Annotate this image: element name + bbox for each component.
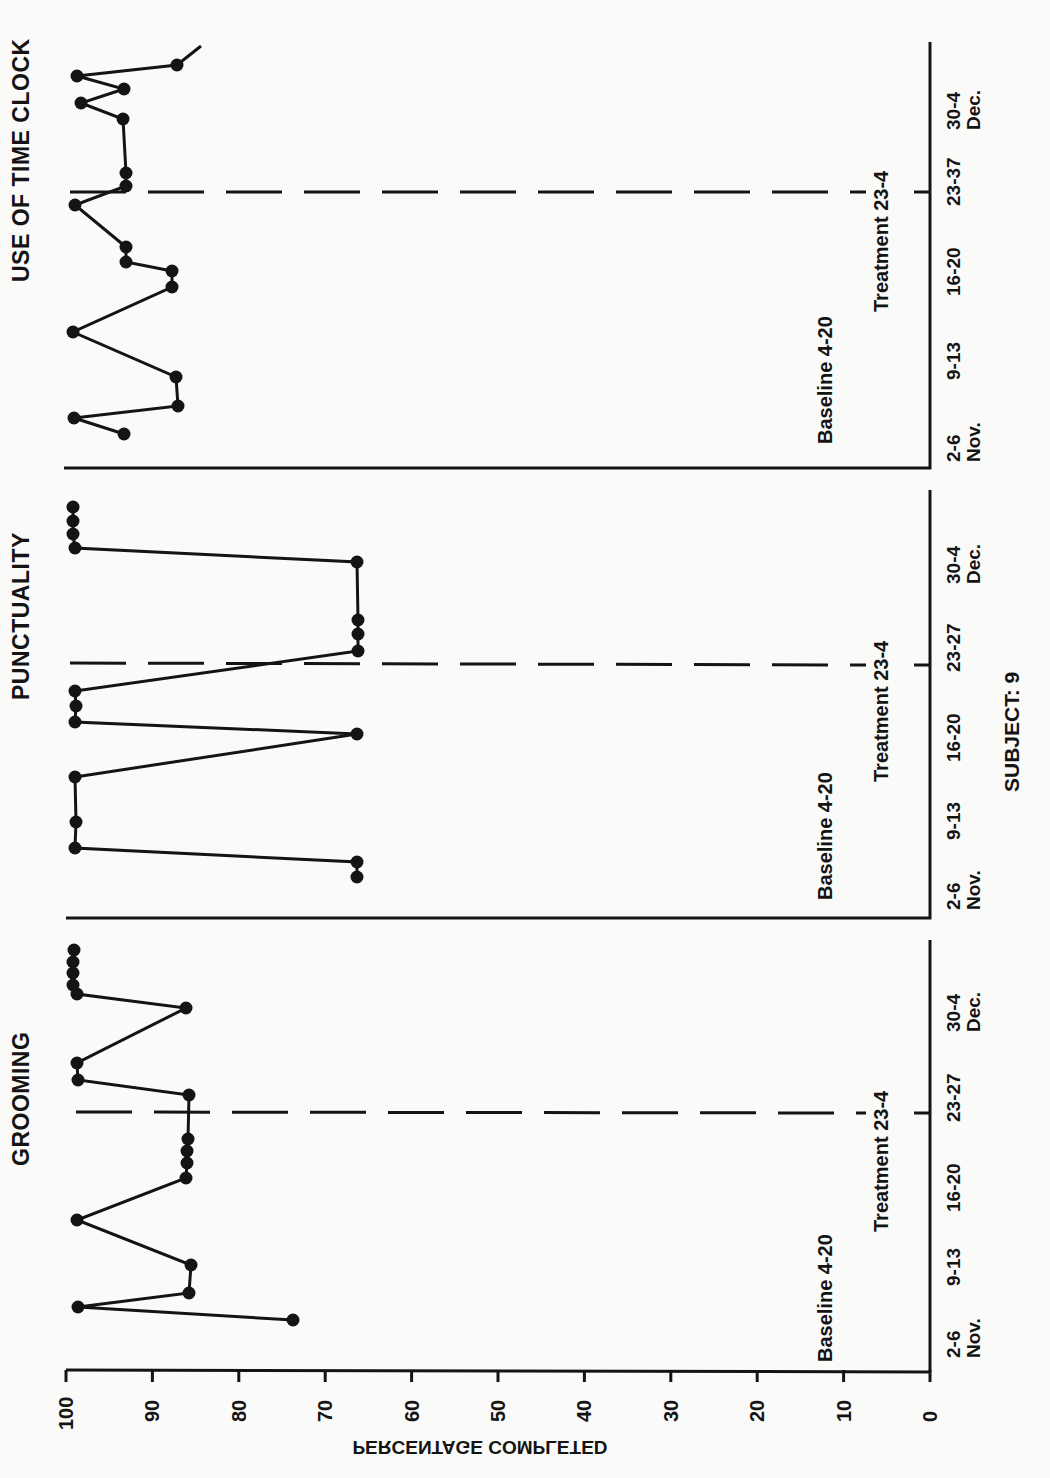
series-time-clock bbox=[67, 46, 202, 441]
date-label: 2-6 Nov. bbox=[944, 422, 984, 462]
data-point bbox=[118, 428, 131, 441]
data-point bbox=[182, 1133, 195, 1146]
data-point bbox=[171, 59, 184, 72]
data-point bbox=[67, 326, 80, 339]
data-point bbox=[180, 1172, 193, 1185]
date-label: 16-20 bbox=[944, 1163, 964, 1212]
data-point bbox=[72, 1301, 85, 1314]
percentage-tick-label: 100 bbox=[56, 1397, 76, 1430]
series-line bbox=[73, 507, 358, 877]
data-point bbox=[68, 412, 81, 425]
baseline-label-time-clock: Baseline 4-20 bbox=[814, 316, 837, 444]
date-label: 23-27 bbox=[944, 1073, 964, 1122]
data-point bbox=[351, 728, 364, 741]
data-point bbox=[70, 816, 83, 829]
data-point bbox=[69, 842, 82, 855]
data-point bbox=[118, 83, 131, 96]
data-point bbox=[180, 1002, 193, 1015]
data-point bbox=[352, 645, 365, 658]
data-point bbox=[75, 97, 88, 110]
phase-line-punctuality bbox=[70, 663, 866, 665]
percentage-tick-label: 70 bbox=[315, 1400, 335, 1422]
date-label: 30-4 Dec. bbox=[944, 90, 984, 130]
data-point bbox=[352, 628, 365, 641]
panel-title-grooming: GROOMING bbox=[8, 1032, 35, 1166]
percentage-tick-label: 50 bbox=[488, 1400, 508, 1422]
date-label: 9-13 bbox=[944, 342, 964, 380]
baseline-label-grooming: Baseline 4-20 bbox=[814, 1234, 837, 1362]
data-point bbox=[68, 944, 81, 957]
date-label: 23-37 bbox=[944, 157, 964, 206]
data-point bbox=[166, 281, 179, 294]
data-point bbox=[117, 113, 130, 126]
data-point bbox=[69, 771, 82, 784]
data-point bbox=[172, 400, 185, 413]
series-punctuality bbox=[67, 501, 365, 884]
y-axis-title: PERCENTAGE COMPLETED bbox=[300, 1436, 660, 1458]
baseline-label-punctuality: Baseline 4-20 bbox=[814, 772, 837, 900]
data-point bbox=[120, 180, 133, 193]
data-point bbox=[183, 1287, 196, 1300]
percentage-tick-label: 20 bbox=[747, 1400, 767, 1422]
subject-label: SUBJECT: 9 bbox=[1000, 672, 1024, 792]
data-point bbox=[71, 1214, 84, 1227]
data-point bbox=[181, 1145, 194, 1158]
data-point bbox=[287, 1314, 300, 1327]
data-point bbox=[181, 1157, 194, 1170]
data-point bbox=[72, 1074, 85, 1087]
data-point bbox=[183, 1089, 196, 1102]
treatment-label-grooming: Treatment 23-4 bbox=[870, 1091, 893, 1232]
series-grooming bbox=[67, 944, 300, 1327]
figure: USE OF TIME CLOCK PUNCTUALITY GROOMING B… bbox=[0, 0, 1050, 1478]
data-point bbox=[120, 256, 133, 269]
data-point bbox=[69, 542, 82, 555]
data-point bbox=[70, 700, 83, 713]
phase-line-grooming bbox=[76, 1112, 866, 1113]
date-label: 16-20 bbox=[944, 247, 964, 296]
data-point bbox=[351, 556, 364, 569]
date-label: 30-4 Dec. bbox=[944, 992, 984, 1032]
data-point bbox=[120, 241, 133, 254]
data-point bbox=[71, 1057, 84, 1070]
percentage-tick-label: 10 bbox=[834, 1400, 854, 1422]
panel-title-punctuality: PUNCTUALITY bbox=[8, 532, 35, 700]
percentage-tick-label: 30 bbox=[661, 1400, 681, 1422]
data-point bbox=[67, 528, 80, 541]
panel-title-time-clock: USE OF TIME CLOCK bbox=[8, 38, 35, 282]
data-point bbox=[71, 988, 84, 1001]
time-axes bbox=[64, 42, 930, 1372]
percentage-tick-label: 0 bbox=[920, 1411, 940, 1422]
date-label: 23-27 bbox=[944, 623, 964, 672]
data-point bbox=[351, 871, 364, 884]
percentage-tick-label: 40 bbox=[574, 1400, 594, 1422]
data-point bbox=[166, 265, 179, 278]
data-point bbox=[69, 716, 82, 729]
percentage-tick-label: 90 bbox=[142, 1400, 162, 1422]
data-point bbox=[170, 371, 183, 384]
percentage-tick-label: 80 bbox=[229, 1400, 249, 1422]
date-label: 9-13 bbox=[944, 1248, 964, 1286]
data-point bbox=[67, 515, 80, 528]
data-point bbox=[120, 167, 133, 180]
date-label: 2-6 Nov. bbox=[944, 1318, 984, 1358]
date-label: 30-4 Dec. bbox=[944, 544, 984, 584]
percentage-tick-label: 60 bbox=[402, 1400, 422, 1422]
percentage-axis bbox=[66, 1370, 930, 1382]
data-point bbox=[69, 199, 82, 212]
data-point bbox=[69, 685, 82, 698]
treatment-label-time-clock: Treatment 23-4 bbox=[870, 171, 893, 312]
data-point bbox=[67, 967, 80, 980]
date-label: 9-13 bbox=[944, 802, 964, 840]
data-point bbox=[71, 70, 84, 83]
data-point bbox=[351, 856, 364, 869]
treatment-label-punctuality: Treatment 23-4 bbox=[870, 641, 893, 782]
data-point bbox=[67, 501, 80, 514]
phase-change-lines bbox=[70, 192, 866, 1113]
data-point bbox=[352, 614, 365, 627]
date-label: 2-6 Nov. bbox=[944, 870, 984, 910]
date-label: 16-20 bbox=[944, 713, 964, 762]
data-point bbox=[185, 1259, 198, 1272]
